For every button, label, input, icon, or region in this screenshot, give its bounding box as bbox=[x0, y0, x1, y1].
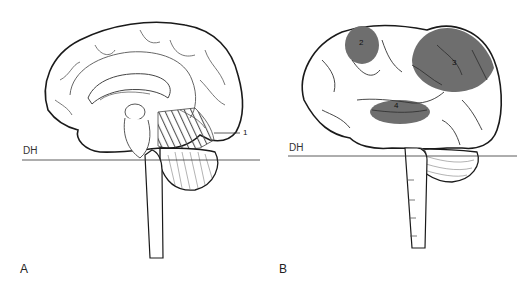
region-4-number: 4 bbox=[394, 101, 398, 110]
panel-a-letter: A bbox=[20, 262, 28, 276]
panel-a-medial-brain: DH 1 A bbox=[0, 0, 265, 287]
panel-b-letter: B bbox=[279, 262, 287, 276]
region-3-number: 3 bbox=[452, 58, 456, 67]
dh-label: DH bbox=[23, 145, 37, 156]
dh-label: DH bbox=[289, 142, 303, 153]
region-2-number: 2 bbox=[359, 38, 363, 47]
region-1-number: 1 bbox=[243, 128, 247, 137]
panel-b-lateral-brain: DH 2 3 4 B bbox=[262, 0, 527, 287]
medial-brain-drawing bbox=[0, 0, 265, 287]
